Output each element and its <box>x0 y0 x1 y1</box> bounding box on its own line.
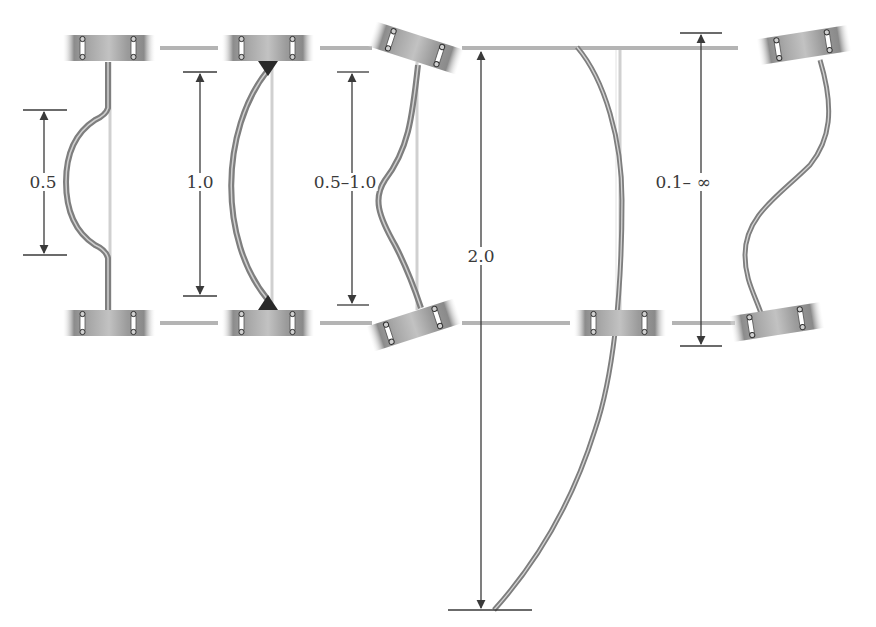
support-block-bottom <box>366 298 462 351</box>
support-block-middle <box>574 310 666 336</box>
support-block-bottom <box>63 310 155 336</box>
support-block-top <box>757 25 852 65</box>
buckling-diagram: 0.5 1.0 0.5–1.0 2.0 0.1– ∞ <box>0 0 876 627</box>
reference-lines <box>160 48 738 323</box>
k-label-fixed-rotating: 0.5–1.0 <box>313 173 378 191</box>
support-block-bottom <box>730 302 825 342</box>
k-label-fixed-free: 2.0 <box>466 247 495 265</box>
support-block-bottom <box>222 310 314 336</box>
support-block-top <box>63 35 155 61</box>
pin-top-icon <box>258 61 278 76</box>
k-label-fixed-fixed: 0.5 <box>28 173 57 191</box>
case-fixed-free <box>448 47 666 610</box>
k-label-pinned-pinned: 1.0 <box>185 173 214 191</box>
support-block-top <box>222 35 314 61</box>
pin-bottom-icon <box>258 295 278 310</box>
k-label-sway-rotating: 0.1– ∞ <box>654 173 711 191</box>
